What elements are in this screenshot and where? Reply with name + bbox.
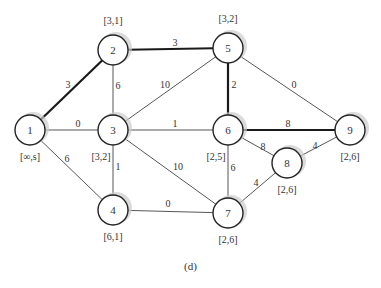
edge-3-7 (113, 130, 228, 213)
node-id: 5 (225, 42, 231, 54)
edge-1-4 (30, 130, 113, 210)
node-label: [2,5] (206, 151, 225, 162)
edge-weight-2-3: 6 (116, 80, 121, 91)
graph-canvas: 3066310111020886044 1[∞,s]2[3,1]3[3,2]4[… (0, 0, 381, 288)
edge-weight-2-5: 3 (173, 37, 178, 48)
node-id: 8 (284, 157, 290, 169)
edge-weight-1-4: 6 (65, 153, 70, 164)
node-5: 5[3,2] (213, 13, 247, 63)
node-id: 2 (110, 44, 116, 56)
edges-layer (30, 48, 350, 213)
node-id: 9 (347, 124, 353, 136)
node-label: [2,6] (277, 184, 296, 195)
node-id: 3 (110, 124, 116, 136)
edge-weight-3-6: 1 (173, 118, 178, 129)
node-label: [2,6] (340, 151, 359, 162)
node-id: 7 (225, 207, 231, 219)
edge-weight-3-4: 1 (116, 161, 121, 172)
node-label: [2,6] (218, 234, 237, 245)
edge-weight-3-7: 10 (173, 161, 183, 172)
edge-weight-6-9: 8 (286, 118, 291, 129)
edge-weight-5-6: 2 (232, 79, 237, 90)
node-9: 9[2,6] (335, 112, 369, 162)
edge-weight-8-9: 4 (313, 140, 318, 151)
node-label: [3,2] (91, 151, 110, 162)
edge-weight-4-7: 0 (166, 198, 171, 209)
edge-weight-1-3: 0 (76, 118, 81, 129)
node-8: 8[2,6] (272, 145, 306, 195)
graph-diagram: 3066310111020886044 1[∞,s]2[3,1]3[3,2]4[… (0, 0, 381, 288)
node-6: 6[2,5] (206, 112, 247, 162)
node-label: [3,2] (218, 13, 237, 24)
edge-weight-3-5: 10 (160, 79, 170, 90)
node-7: 7[2,6] (213, 195, 247, 245)
node-id: 6 (225, 124, 231, 136)
node-1: 1[∞,s] (15, 112, 49, 162)
edge-weight-6-7: 6 (231, 162, 236, 173)
edge-3-5 (113, 48, 228, 130)
node-3: 3[3,2] (91, 112, 132, 162)
edge-weight-7-8: 4 (254, 177, 259, 188)
edge-weight-6-8: 8 (261, 141, 266, 152)
edge-weight-5-9: 0 (292, 79, 297, 90)
figure-caption: (d) (0, 260, 381, 272)
node-2: 2[3,1] (98, 15, 132, 65)
node-label: [3,1] (103, 15, 122, 26)
node-label: [∞,s] (20, 151, 40, 162)
node-4: 4[6,1] (98, 192, 132, 242)
node-id: 4 (110, 204, 116, 216)
node-label: [6,1] (103, 231, 122, 242)
edge-weight-1-2: 3 (66, 79, 71, 90)
node-id: 1 (27, 124, 33, 136)
